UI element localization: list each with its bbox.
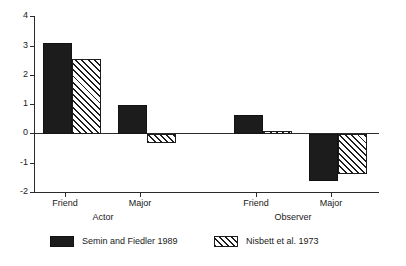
legend-entry-semin: Semin and Fiedler 1989 [50,234,178,248]
x-tick-observer-friend [256,192,257,197]
group-label-actor: Actor [92,212,113,223]
bar-actor-friend-nisbett [72,59,101,134]
bar-observer-major-nisbett [338,134,367,174]
x-tick-actor-major [140,192,141,197]
legend-label-semin: Semin and Fiedler 1989 [82,236,178,247]
legend-swatch-solid-icon [50,236,74,247]
x-tick-observer-major [331,192,332,197]
x-label-observer-major: Major [320,198,343,209]
bar-observer-friend-semin [234,115,263,134]
legend: Semin and Fiedler 1989 Nisbett et al. 19… [34,234,379,250]
x-label-observer-friend: Friend [243,198,269,209]
bar-observer-major-semin [309,134,338,181]
x-tick-actor-friend [65,192,66,197]
bar-observer-friend-nisbett [263,131,292,134]
legend-label-nisbett: Nisbett et al. 1973 [246,236,319,247]
y-tick-label-minus1: -1 [6,157,28,168]
x-axis-line [34,192,379,193]
x-label-actor-major: Major [129,198,152,209]
y-tick-label-minus2: -2 [6,186,28,197]
x-label-actor-friend: Friend [52,198,78,209]
bar-actor-friend-semin [43,43,72,134]
bar-chart-figure: 4 3 2 1 0 -1 -2 [0,0,406,266]
plot-area: 4 3 2 1 0 -1 -2 [34,16,379,193]
group-label-observer: Observer [274,212,311,223]
y-tick-label-4: 4 [6,10,28,21]
y-tick-label-1: 1 [6,98,28,109]
legend-swatch-hatched-icon [214,236,238,247]
y-tick-label-0: 0 [6,127,28,138]
y-tick-label-3: 3 [6,40,28,51]
bar-actor-major-semin [118,105,147,135]
y-tick-label-2: 2 [6,69,28,80]
bar-actor-major-nisbett [147,134,176,143]
legend-entry-nisbett: Nisbett et al. 1973 [214,234,319,248]
